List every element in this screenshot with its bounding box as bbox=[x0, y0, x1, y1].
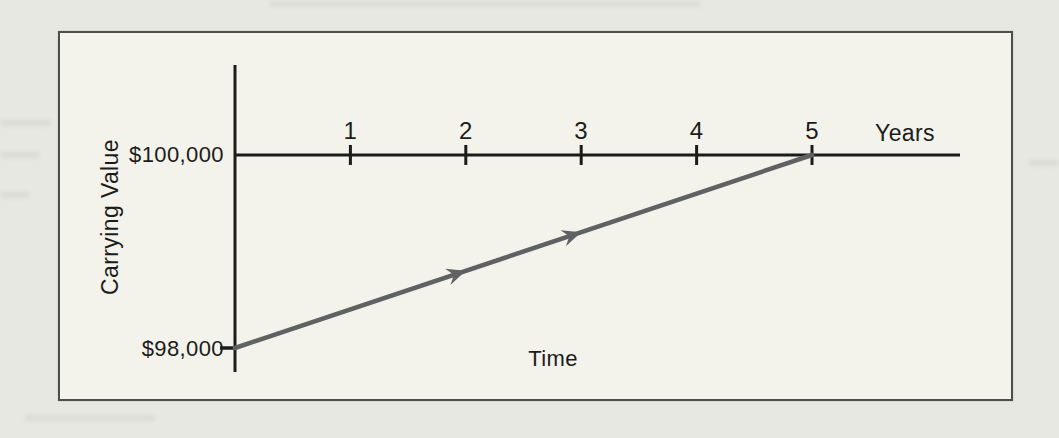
bleedthrough-artifact bbox=[1028, 160, 1059, 166]
x-tick-label: 2 bbox=[459, 117, 473, 145]
x-tick-label: 4 bbox=[690, 117, 704, 145]
bleedthrough-artifact bbox=[25, 415, 155, 421]
x-tick-label: 5 bbox=[805, 117, 819, 145]
bleedthrough-artifact bbox=[0, 152, 40, 158]
bleedthrough-artifact bbox=[0, 120, 52, 126]
figure-panel: Carrying Value $100,000 $98,000 12345 Ye… bbox=[58, 31, 1013, 401]
scanned-page: Carrying Value $100,000 $98,000 12345 Ye… bbox=[0, 0, 1059, 438]
x-tick-label: 1 bbox=[344, 117, 358, 145]
x-axis-title: Time bbox=[528, 346, 578, 372]
series-line-carrying-value bbox=[235, 155, 812, 348]
y-tick-label-98000: $98,000 bbox=[64, 336, 224, 362]
x-axis-unit-label: Years bbox=[875, 120, 935, 147]
x-tick-label: 3 bbox=[574, 117, 588, 145]
bleedthrough-artifact bbox=[0, 192, 30, 198]
y-axis-title: Carrying Value bbox=[97, 107, 121, 327]
y-tick-label-100000: $100,000 bbox=[64, 142, 224, 168]
arrowhead-icon bbox=[560, 224, 583, 246]
arrowhead-icon bbox=[445, 263, 468, 285]
bleedthrough-artifact bbox=[270, 1, 700, 7]
